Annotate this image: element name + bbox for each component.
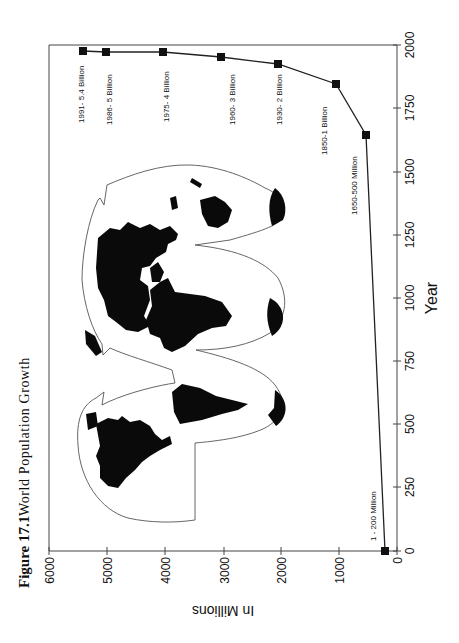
marker-year-1986 (102, 48, 110, 56)
landmass-south-america (172, 384, 248, 424)
year-tick-label: 1500 (403, 158, 417, 185)
landmass-antarctica-1 (269, 188, 285, 226)
year-tick-label: 1250 (403, 221, 417, 248)
year-tick-label: 750 (403, 351, 417, 371)
marker-year-1650 (362, 131, 370, 139)
landmass-north-america (96, 416, 172, 488)
year-tick-label: 2000 (403, 31, 417, 58)
landmass-africa (146, 278, 232, 352)
landmass-middle-east (150, 262, 164, 282)
population-axis-label: In Millions (192, 603, 254, 619)
annotation-1960: 1960- 3 Billion (228, 74, 237, 125)
annotation-1975: 1975- 4 Billion (162, 71, 171, 122)
population-tick-label: 0 (391, 557, 405, 564)
population-tick-label: 6000 (43, 557, 57, 584)
year-tick-label: 1750 (403, 94, 417, 121)
population-tick-label: 1000 (333, 557, 347, 584)
landmass-islands-1 (190, 178, 202, 188)
figure-title-text: World Population Growth (17, 357, 32, 516)
population-tick-label: 5000 (101, 557, 115, 584)
year-tick-label: 1000 (403, 284, 417, 311)
annotation-1930: 1930- 2 Billion (275, 74, 284, 125)
landmass-antarctica-2 (267, 298, 283, 336)
world-map (78, 165, 286, 522)
population-tick-label: 2000 (275, 557, 289, 584)
chart-svg: Figure 17.1 World Population Growth (0, 0, 459, 643)
figure-label: Figure 17.1 (16, 516, 32, 588)
annotation-1991: 1991- 5.4 Billion (77, 66, 86, 123)
population-tick-label: 3000 (218, 557, 232, 584)
marker-year-1960 (217, 53, 225, 61)
annotation-1650: 1650-500 Million (350, 156, 359, 215)
year-tick-label: 500 (403, 414, 417, 434)
marker-year-1 (381, 547, 389, 555)
annotation-1986: 1986- 5 Billion (105, 74, 114, 125)
landmass-greenland (85, 330, 102, 356)
year-tick-label: 0 (403, 547, 417, 554)
landmass-australia (200, 196, 232, 228)
annotation-1: 1 - 200 Million (369, 491, 378, 541)
year-axis-label: Year (423, 281, 440, 314)
landmass-alaska (86, 412, 98, 430)
marker-year-1991 (79, 47, 87, 55)
annotation-1850: 1850-1 Billion (320, 107, 329, 155)
population-tick-label: 4000 (159, 557, 173, 584)
marker-year-1975 (159, 48, 167, 56)
population-tick-labels: 0 1000 2000 3000 4000 5000 6000 (43, 557, 405, 584)
figure: Figure 17.1 World Population Growth (0, 0, 459, 643)
landmass-islands-2 (170, 196, 178, 210)
year-tick-labels: 0 250 500 750 1000 1250 1500 1750 2000 (403, 31, 417, 554)
marker-year-1930 (274, 60, 282, 68)
year-tick-label: 250 (403, 477, 417, 497)
figure-title: Figure 17.1 World Population Growth (16, 357, 32, 588)
marker-year-1850 (332, 80, 340, 88)
landmass-antarctica-3 (268, 390, 286, 426)
